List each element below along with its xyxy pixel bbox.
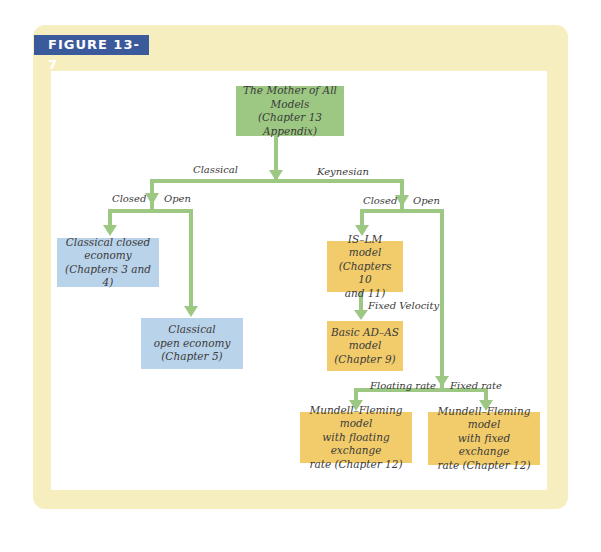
node-mundell-fleming-floating: Mundell–Fleming model with floating exch…: [300, 412, 412, 463]
edge-label-keynesian-open: Open: [413, 195, 440, 206]
edge-label-fixed-rate: Fixed rate: [450, 380, 502, 391]
edge-label-classical: Classical: [193, 164, 238, 175]
node-line: Mundell–Fleming model: [432, 405, 536, 432]
node-line: IS–LM model: [331, 233, 399, 260]
node-line: economy: [61, 249, 155, 263]
node-classical-open-economy: Classical open economy (Chapter 5): [141, 318, 243, 369]
node-line: with fixed exchange: [432, 432, 536, 459]
node-line: and 11): [331, 287, 399, 301]
node-classical-closed-economy: Classical closed economy (Chapters 3 and…: [57, 238, 159, 287]
edge-label-classical-closed: Closed: [112, 193, 146, 204]
node-line: (Chapter 13 Appendix): [240, 111, 340, 138]
edge-label-fixed-velocity: Fixed Velocity: [368, 300, 439, 311]
node-line: open economy: [154, 337, 231, 351]
edge-label-keynesian-closed: Closed: [363, 195, 397, 206]
node-line: (Chapters 3 and 4): [61, 263, 155, 290]
node-line: model: [331, 339, 399, 353]
node-line: Classical closed: [61, 236, 155, 250]
node-is-lm-model: IS–LM model (Chapters 10 and 11): [327, 241, 403, 292]
node-line: rate (Chapter 12): [304, 458, 408, 472]
edge-label-classical-open: Open: [164, 193, 191, 204]
edge-label-keynesian: Keynesian: [317, 166, 369, 177]
node-mundell-fleming-fixed: Mundell–Fleming model with fixed exchang…: [428, 412, 540, 465]
node-basic-ad-as-model: Basic AD–AS model (Chapter 9): [327, 321, 403, 371]
node-line: (Chapter 9): [331, 353, 399, 367]
node-line: (Chapter 5): [154, 350, 231, 364]
node-line: Classical: [154, 323, 231, 337]
node-line: with floating exchange: [304, 431, 408, 458]
edge-label-floating-rate: Floating rate: [370, 380, 436, 391]
node-line: Basic AD–AS: [331, 326, 399, 340]
node-line: (Chapters 10: [331, 260, 399, 287]
node-mother-of-all-models: The Mother of All Models (Chapter 13 App…: [236, 86, 344, 136]
node-line: The Mother of All Models: [240, 84, 340, 111]
node-line: Mundell–Fleming model: [304, 404, 408, 431]
node-line: rate (Chapter 12): [432, 459, 536, 473]
